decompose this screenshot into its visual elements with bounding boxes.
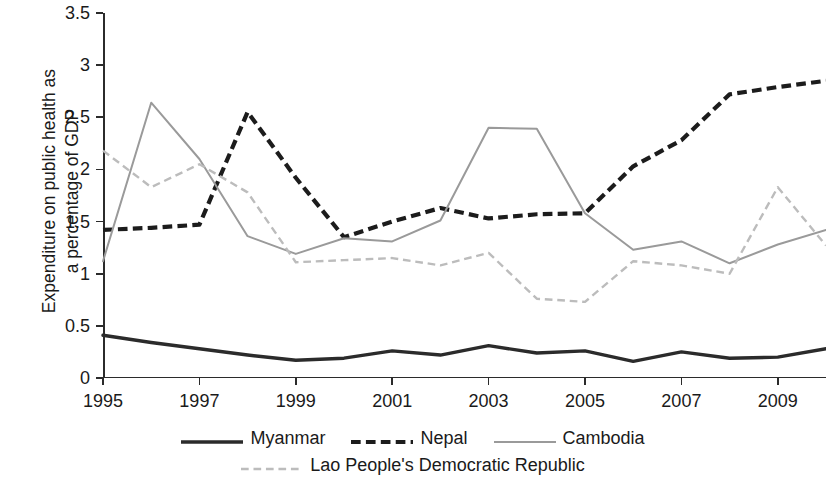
- legend-row: Lao People's Democratic Republic: [0, 451, 826, 478]
- legend-label: Lao People's Democratic Republic: [310, 452, 585, 478]
- x-tick-label: 2001: [357, 391, 427, 412]
- legend-label: Myanmar: [250, 425, 325, 451]
- legend-item-lao-people-s-democratic-republic[interactable]: Lao People's Democratic Republic: [241, 452, 585, 479]
- legend-label: Cambodia: [563, 425, 645, 451]
- x-tick-mark: [391, 378, 393, 385]
- legend-item-cambodia[interactable]: Cambodia: [494, 424, 645, 451]
- chart-legend: MyanmarNepalCambodiaLao People's Democra…: [0, 424, 826, 478]
- x-tick-label: 2003: [454, 391, 524, 412]
- y-tick-mark: [96, 273, 103, 275]
- x-tick-mark: [295, 378, 297, 385]
- y-tick-mark: [96, 64, 103, 66]
- legend-swatch-icon: [241, 458, 303, 472]
- legend-label: Nepal: [420, 425, 467, 451]
- chart-figure: Expenditure on public health as a percen…: [0, 0, 826, 481]
- x-tick-label: 1999: [261, 391, 331, 412]
- y-tick-label: 0.5: [30, 315, 90, 336]
- y-tick-mark: [96, 169, 103, 171]
- legend-item-nepal[interactable]: Nepal: [351, 424, 467, 451]
- y-tick-label: 1: [30, 263, 90, 284]
- y-tick-mark: [96, 325, 103, 327]
- y-tick-label: 3.5: [30, 3, 90, 24]
- legend-swatch-icon: [181, 431, 243, 445]
- y-tick-label: 3: [30, 55, 90, 76]
- legend-row: MyanmarNepalCambodia: [0, 424, 826, 451]
- y-tick-label: 2: [30, 159, 90, 180]
- x-tick-mark: [681, 378, 683, 385]
- legend-swatch-icon: [494, 431, 556, 445]
- legend-item-myanmar[interactable]: Myanmar: [181, 424, 325, 451]
- y-tick-label: 2.5: [30, 107, 90, 128]
- series-line-myanmar: [103, 335, 826, 361]
- plot-area: 00.511.522.533.5 19951997199920012003200…: [103, 13, 826, 378]
- y-tick-mark: [96, 116, 103, 118]
- x-tick-label: 1995: [68, 391, 138, 412]
- x-tick-mark: [102, 378, 104, 385]
- x-tick-label: 1997: [164, 391, 234, 412]
- series-line-nepal: [103, 81, 826, 237]
- x-tick-mark: [199, 378, 201, 385]
- legend-swatch-icon: [351, 431, 413, 445]
- x-tick-label: 2007: [646, 391, 716, 412]
- x-tick-label: 2005: [550, 391, 620, 412]
- x-tick-label: 2009: [743, 391, 813, 412]
- x-tick-mark: [584, 378, 586, 385]
- x-tick-mark: [777, 378, 779, 385]
- y-tick-mark: [96, 12, 103, 14]
- y-tick-label: 1.5: [30, 211, 90, 232]
- y-tick-label: 0: [30, 368, 90, 389]
- x-tick-mark: [488, 378, 490, 385]
- series-lines: [103, 13, 826, 378]
- series-line-cambodia: [103, 103, 826, 264]
- y-tick-mark: [96, 221, 103, 223]
